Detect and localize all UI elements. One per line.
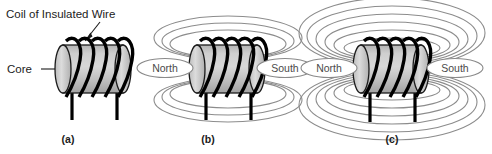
panel-a-caption: (a) xyxy=(62,133,75,145)
pole-north-c: North xyxy=(301,59,357,78)
pole-north-label-b: North xyxy=(152,62,178,74)
electromagnet-figure: Coil of Insulated Wire Core xyxy=(0,0,492,154)
panel-b-caption: (b) xyxy=(201,133,214,145)
pole-south-label-b: South xyxy=(271,62,299,74)
pole-south-c: South xyxy=(427,59,483,78)
core-annotation-label: Core xyxy=(7,63,32,75)
core-cap-left xyxy=(55,45,71,93)
panel-c-caption: (c) xyxy=(386,133,399,145)
pole-south-label-c: South xyxy=(441,62,469,74)
coil-annotation-label: Coil of Insulated Wire xyxy=(6,8,115,20)
figure-canvas: Coil of Insulated Wire Core xyxy=(0,0,492,154)
pole-north-label-c: North xyxy=(316,62,342,74)
pole-north-b: North xyxy=(137,59,193,78)
